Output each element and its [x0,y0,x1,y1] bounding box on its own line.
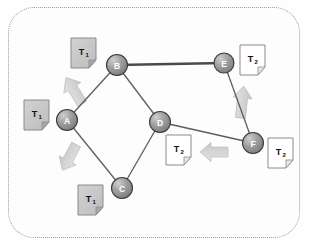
arrow-a-to-doc-c-icon [54,140,84,175]
document-icon-t2-near-d[interactable]: T 2 [166,135,191,165]
document-label-t: T [86,194,92,204]
document-icon-t1-near-b[interactable]: T 1 [71,38,96,68]
document-icon-t1-near-a[interactable]: T 1 [24,100,49,130]
document-icon-t1-near-c[interactable]: T 1 [78,185,103,215]
graph-node-b[interactable]: B [107,55,128,76]
document-icon-t2-near-f[interactable]: T 2 [268,138,293,168]
graph-nodes-group: A B C D E F [57,53,264,199]
arrow-a-to-doc-b-icon [58,72,91,109]
edge-c-d [122,122,160,188]
document-label-t: T [248,54,254,64]
graph-node-f-label: F [250,139,255,149]
graph-node-e-label: E [221,59,227,69]
graph-node-c[interactable]: C [112,178,133,199]
document-icon-t2-near-e[interactable]: T 2 [240,45,265,75]
arrow-f-to-doc-d-icon [200,143,228,162]
edge-b-e [117,63,224,65]
diagram-canvas: A B C D E F [0,0,310,247]
graph-node-c-label: C [119,184,125,194]
document-label-t: T [32,109,38,119]
document-label-t: T [174,144,180,154]
graph-node-e[interactable]: E [214,53,234,73]
graph-node-b-label: B [114,61,120,71]
document-label-t: T [79,47,85,57]
graph-layer: A B C D E F [0,0,310,247]
graph-node-a[interactable]: A [57,110,78,131]
graph-node-a-label: A [64,116,70,126]
graph-node-d-label: D [157,118,163,128]
graph-node-d[interactable]: D [150,112,171,133]
graph-node-f[interactable]: F [243,133,264,154]
document-label-t: T [276,147,282,157]
